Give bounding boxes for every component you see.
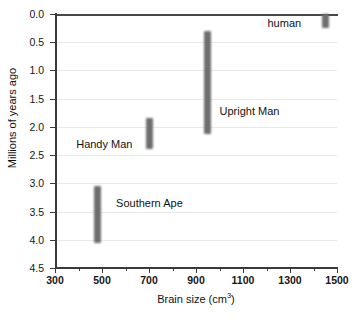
- range-bar-handy-man: [146, 118, 153, 149]
- x-tick: [55, 268, 56, 273]
- y-tick-label: 1.0: [0, 65, 44, 75]
- y-tick: [50, 183, 55, 184]
- x-tick-label: 1500: [317, 275, 353, 286]
- x-tick-label: 1100: [223, 275, 263, 286]
- x-tick-label: 700: [129, 275, 169, 286]
- y-tick: [50, 70, 55, 71]
- y-tick-label: 0.5: [0, 37, 44, 47]
- x-tick-minor: [220, 268, 221, 271]
- x-axis-title: Brain size (cm3): [55, 291, 337, 305]
- x-tick-label: 1300: [270, 275, 310, 286]
- x-tick-minor: [267, 268, 268, 271]
- y-tick-label: 2.0: [0, 122, 44, 132]
- gridline: [55, 155, 337, 156]
- range-bar-southern-ape: [94, 186, 101, 242]
- y-tick-label: 0.0: [0, 9, 44, 19]
- x-tick: [102, 268, 103, 273]
- y-tick: [50, 155, 55, 156]
- x-tick-minor: [126, 268, 127, 271]
- range-bar-human: [322, 14, 329, 28]
- x-axis-title-superscript: 3: [227, 291, 231, 300]
- y-tick-label: 2.5: [0, 150, 44, 160]
- y-tick-label: 4.0: [0, 235, 44, 245]
- y-tick-label: 4.5: [0, 263, 44, 273]
- x-tick: [149, 268, 150, 273]
- series-label-upright-man: Upright Man: [220, 105, 280, 117]
- gridline: [55, 99, 337, 100]
- x-tick-label: 500: [82, 275, 122, 286]
- y-tick: [50, 42, 55, 43]
- gridline: [55, 70, 337, 71]
- x-tick-label: 900: [176, 275, 216, 286]
- x-tick-minor: [314, 268, 315, 271]
- y-tick-label: 3.5: [0, 207, 44, 217]
- x-tick: [243, 268, 244, 273]
- series-label-handy-man: Handy Man: [76, 138, 132, 150]
- y-tick: [50, 14, 55, 15]
- y-tick-label: 1.5: [0, 94, 44, 104]
- gridline: [55, 183, 337, 184]
- y-tick-label: 3.0: [0, 178, 44, 188]
- axis-top-line: [55, 14, 338, 16]
- y-axis-line: [55, 13, 57, 269]
- y-tick: [50, 240, 55, 241]
- gridline: [55, 127, 337, 128]
- y-tick: [50, 127, 55, 128]
- x-tick: [290, 268, 291, 273]
- series-label-human: human: [268, 17, 302, 29]
- x-tick-minor: [79, 268, 80, 271]
- x-tick-minor: [173, 268, 174, 271]
- y-tick: [50, 99, 55, 100]
- y-tick: [50, 212, 55, 213]
- x-tick-label: 300: [35, 275, 75, 286]
- x-tick: [196, 268, 197, 273]
- gridline: [55, 42, 337, 43]
- range-bar-upright-man: [204, 31, 211, 134]
- x-tick: [337, 268, 338, 273]
- series-label-southern-ape: Southern Ape: [116, 197, 183, 209]
